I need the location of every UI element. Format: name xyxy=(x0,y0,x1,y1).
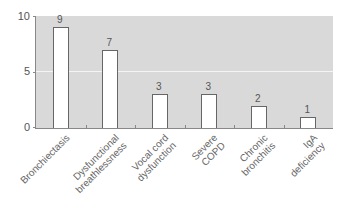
xtick-mark xyxy=(185,125,186,129)
xtick-label: Bronchiectasis xyxy=(18,132,72,186)
bar-value-label: 7 xyxy=(101,37,117,48)
xtick-label: SevereCOPD xyxy=(190,132,228,170)
bar-value-label: 2 xyxy=(250,93,266,104)
ytick-label-5: 5 xyxy=(10,65,30,77)
ytick-label-10: 10 xyxy=(10,10,30,22)
bar-value-label: 3 xyxy=(200,81,216,92)
bar xyxy=(201,94,217,128)
bar xyxy=(102,50,118,128)
bar xyxy=(152,94,168,128)
xtick-mark xyxy=(234,125,235,129)
bar xyxy=(300,117,316,128)
xtick-mark xyxy=(86,125,87,129)
gridline-5 xyxy=(36,71,333,72)
xtick-label: Chronicbronchitis xyxy=(231,132,277,178)
ytick-mark-0 xyxy=(33,127,36,128)
bar-value-label: 9 xyxy=(52,14,68,25)
ytick-mark-10 xyxy=(33,16,36,17)
plot-area xyxy=(35,16,333,129)
xtick-label: IgAdeficiency xyxy=(280,132,327,179)
xtick-label: Vocal corddysfunction xyxy=(127,132,178,183)
xtick-label: Dysfunctionalbreathlessness xyxy=(66,132,129,195)
xtick-mark xyxy=(135,125,136,129)
ytick-label-0: 0 xyxy=(10,121,30,133)
bar xyxy=(251,106,267,128)
xtick-mark xyxy=(284,125,285,129)
bar-value-label: 3 xyxy=(151,81,167,92)
bar-value-label: 1 xyxy=(299,104,315,115)
bar xyxy=(53,27,69,128)
ytick-mark-5 xyxy=(33,72,36,73)
